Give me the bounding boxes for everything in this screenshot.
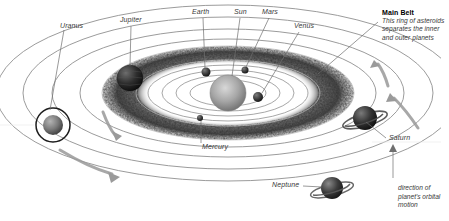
label-venus: Venus	[294, 22, 314, 29]
mercury-body	[197, 115, 203, 121]
label-saturn: Saturn	[389, 134, 410, 141]
label-mars: Mars	[262, 8, 278, 15]
label-mercury: Mercury	[202, 143, 228, 150]
earth-body	[202, 68, 211, 77]
motion-line2: planet's orbital	[398, 193, 449, 202]
leader-saturn	[366, 122, 386, 138]
label-earth: Earth	[192, 8, 209, 15]
main-belt-title: Main Belt	[382, 9, 449, 17]
label-uranus: Uranus	[60, 22, 83, 29]
main-belt-line3: and outer planets	[382, 34, 449, 42]
main-belt-line2: separates the inner	[382, 25, 449, 33]
orbital-motion-note: direction of planet's orbital motion	[398, 184, 449, 210]
label-neptune: Neptune	[272, 181, 299, 188]
neptune-body	[309, 177, 355, 201]
motion-line1: direction of	[398, 184, 449, 193]
motion-line3: motion	[398, 201, 449, 210]
venus-body	[253, 92, 263, 102]
leader-neptune	[303, 186, 322, 187]
label-sun: Sun	[234, 8, 247, 15]
main-belt-callout: Main Belt This ring of asteroids separat…	[382, 9, 449, 42]
main-belt-line1: This ring of asteroids	[382, 17, 449, 25]
jupiter-body	[117, 65, 143, 91]
sun-body	[210, 75, 246, 111]
label-jupiter: Jupiter	[120, 16, 142, 23]
mars-body	[242, 67, 249, 74]
leader-uranus	[50, 30, 64, 110]
uranus-body	[36, 108, 70, 142]
motion-arrow-head	[389, 144, 397, 152]
